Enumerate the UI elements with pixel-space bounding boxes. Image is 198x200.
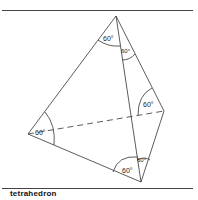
angle-label-right: 60° bbox=[143, 101, 154, 108]
angle-label-bottom-left: 60° bbox=[122, 167, 133, 174]
edge-right-bottom bbox=[141, 111, 164, 182]
angle-label-bottom-right: 60° bbox=[137, 157, 147, 163]
edge-left-bottom bbox=[28, 134, 141, 182]
arc-left bbox=[45, 112, 54, 145]
edge-top-left bbox=[28, 16, 116, 134]
angle-label-left: 60° bbox=[35, 129, 46, 136]
figure-caption: tetrahedron bbox=[10, 189, 57, 198]
angle-label-top-right: 60° bbox=[121, 48, 131, 54]
tetrahedron-diagram: 60° 60° 60° 60° 60° 60° bbox=[0, 0, 198, 190]
angle-label-top-left: 60° bbox=[103, 35, 114, 42]
edge-left-right-hidden bbox=[28, 111, 164, 134]
arc-top-right bbox=[122, 54, 135, 60]
